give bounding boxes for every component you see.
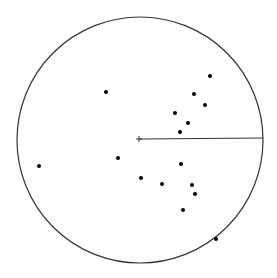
polar-diagram xyxy=(0,0,277,278)
data-point xyxy=(173,111,177,115)
boundary-circle xyxy=(17,17,263,263)
data-point xyxy=(179,162,183,166)
data-point xyxy=(190,183,194,187)
data-point xyxy=(208,74,212,78)
data-point xyxy=(181,208,185,212)
data-point xyxy=(104,90,108,94)
data-point xyxy=(160,182,164,186)
center-cross-icon xyxy=(136,136,142,142)
data-point xyxy=(37,164,41,168)
data-point xyxy=(192,92,196,96)
data-point xyxy=(116,156,120,160)
data-points xyxy=(37,74,218,241)
data-point xyxy=(203,103,207,107)
reference-radius-line xyxy=(139,138,263,139)
data-point xyxy=(214,237,218,241)
data-point xyxy=(139,176,143,180)
data-point xyxy=(193,192,197,196)
data-point xyxy=(186,121,190,125)
data-point xyxy=(178,130,182,134)
